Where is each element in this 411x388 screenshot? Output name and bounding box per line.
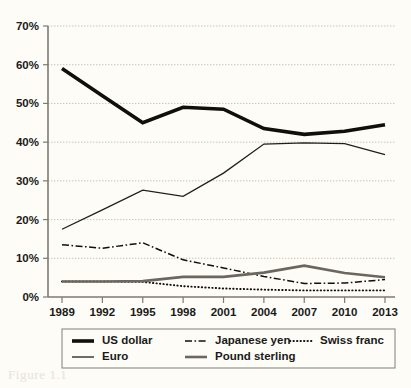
- x-tick-label: 2007: [291, 306, 317, 318]
- y-tick-label: 40%: [16, 136, 39, 148]
- legend-label: Pound sterling: [215, 350, 296, 362]
- figure-caption: Figure 1.1: [0, 362, 411, 388]
- legend-label: Euro: [102, 350, 128, 362]
- currency-share-line-chart: 0%10%20%30%40%50%60%70% 1989199219951998…: [0, 0, 411, 388]
- y-tick-label: 30%: [16, 175, 39, 187]
- legend-label: Japanese yen: [215, 334, 290, 346]
- x-tick-label: 1995: [130, 306, 156, 318]
- x-tick-label: 2013: [372, 306, 398, 318]
- y-tick-label: 50%: [16, 97, 39, 109]
- x-tick-label: 1989: [49, 306, 75, 318]
- y-tick-label: 0%: [22, 291, 39, 303]
- y-tick-label: 70%: [16, 20, 39, 32]
- x-tick-label: 2010: [332, 306, 358, 318]
- x-tick-label: 1992: [90, 306, 116, 318]
- legend-label: Swiss franc: [320, 334, 385, 346]
- y-tick-label: 10%: [16, 252, 39, 264]
- y-tick-label: 60%: [16, 59, 39, 71]
- legend-label: US dollar: [102, 334, 153, 346]
- x-tick-label: 1998: [170, 306, 196, 318]
- y-tick-label: 20%: [16, 214, 39, 226]
- x-tick-label: 2004: [251, 306, 277, 318]
- x-tick-label: 2001: [211, 306, 237, 318]
- chart-figure: 0%10%20%30%40%50%60%70% 1989199219951998…: [0, 0, 411, 388]
